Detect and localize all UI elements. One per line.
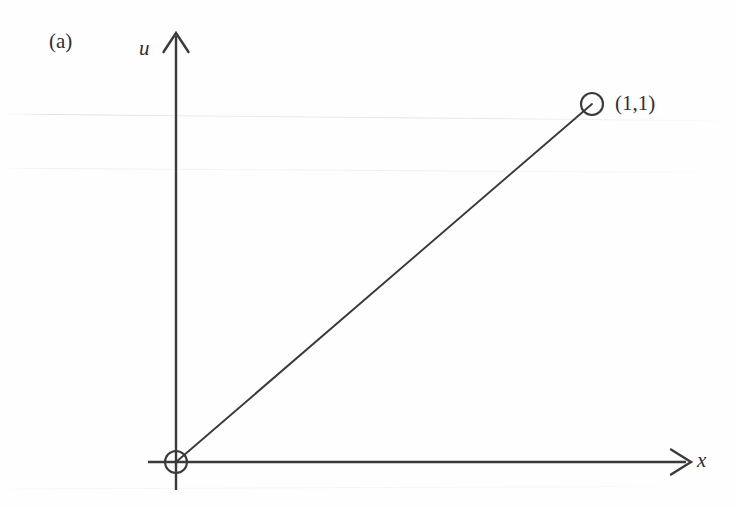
point-coordinate-label: (1,1) — [615, 93, 655, 114]
u-axis-label: u — [139, 38, 150, 59]
figure-container: (a) u x (1,1) — [0, 0, 736, 507]
panel-tag-label: (a) — [49, 31, 72, 52]
x-axis-label: x — [697, 450, 706, 471]
data-line-u-equals-x — [176, 104, 592, 462]
plot-canvas — [0, 0, 736, 507]
